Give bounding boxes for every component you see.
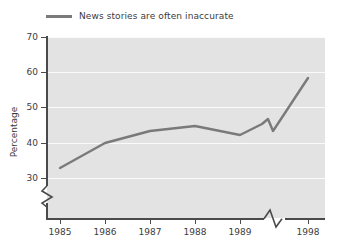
data-series-group [0,0,341,251]
series-line-news-stories-inaccurate [60,78,308,168]
chart-container: News stories are often inaccurate 70 60 … [0,0,341,251]
